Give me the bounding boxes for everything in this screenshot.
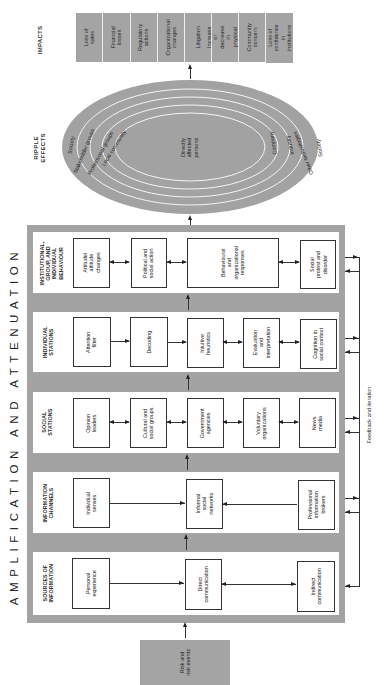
- impact-loss-of-sales: Loss of sales: [76, 13, 103, 62]
- arrowhead-up-icon: [184, 534, 188, 539]
- box-professional-brokers: Professional information brokers: [298, 480, 335, 530]
- arrowhead-up-icon: [186, 374, 190, 379]
- box-government-agencies: Government agencies: [187, 398, 224, 448]
- box-voluntary-orgs: Voluntary organizations: [243, 398, 280, 448]
- stage-label-social: SOCIAL STATIONS: [35, 396, 61, 448]
- box-political-social-action: Political and social action: [131, 238, 167, 288]
- arrowhead-up-icon: [188, 215, 192, 220]
- stage-label-institutional: INSTITUTIONAL, GROUP, AND INDIVIDUAL BEH…: [35, 236, 67, 290]
- impacts-heading: IMPACTS: [22, 20, 58, 60]
- risk-events-box: Risk and risk events: [140, 640, 230, 685]
- box-indirect-communication: Indirect communication: [297, 561, 335, 612]
- arrowhead-up-icon: [185, 454, 189, 459]
- stage-label-sources: SOURCES OF INFORMATION: [35, 556, 61, 610]
- box-attitude-changes: Attitude/ attitude changes: [73, 238, 110, 288]
- diagram-title: AMPLIFICATION AND ATTENUATION: [3, 228, 25, 623]
- box-attention-filter: Attention filter: [73, 317, 111, 367]
- impact-physical-risk: Increase or decrease in physical risk: [212, 13, 239, 62]
- arrowhead-up-icon: [186, 294, 190, 299]
- box-evaluation: Evaluation and interpretation: [243, 318, 280, 368]
- impact-regulatory-actions: Regulatory actions: [131, 13, 158, 62]
- box-cognition-social: Cognition in social context: [300, 319, 337, 369]
- box-direct-communication: Direct communication: [185, 559, 222, 610]
- arrowhead-up-icon: [188, 64, 192, 69]
- arrowhead-up-icon: [183, 622, 187, 627]
- box-opinion-leaders: Opinion leaders: [73, 398, 110, 448]
- stage-label-individual: INDIVIDUAL STATIONS: [35, 316, 61, 368]
- box-cultural-social-groups: Cultural and social groups: [130, 398, 167, 448]
- impact-financial-losses: Financial losses: [103, 13, 131, 62]
- box-informal-networks: Informal social networks: [186, 479, 223, 529]
- box-news-media: News media: [299, 398, 336, 448]
- box-decoding: Decoding: [130, 317, 168, 367]
- ripple-heading: RIPPLE EFFECTS: [22, 125, 58, 170]
- box-social-protest: Social protest and disorder: [300, 240, 336, 289]
- feedback-label: Feedback and iteration: [360, 370, 378, 460]
- stage-label-channels: INFORMATION CHANNELS: [35, 476, 61, 530]
- impact-community-concern: Community concern: [239, 13, 266, 62]
- box-intuitive-heuristics: Intuitive heuristics: [187, 318, 224, 368]
- box-behavioural-responses: Behavioural and organizational responses: [187, 238, 279, 288]
- box-individual-senses: Individual senses: [73, 478, 110, 528]
- impact-organizational-changes: Organizational changes: [158, 13, 185, 62]
- impact-loss-of-confidence: Loss of confidence in institutions: [266, 13, 293, 63]
- ripple-center-label: Directly affected persons: [170, 130, 210, 166]
- box-personal-experience: Personal experience: [72, 558, 110, 609]
